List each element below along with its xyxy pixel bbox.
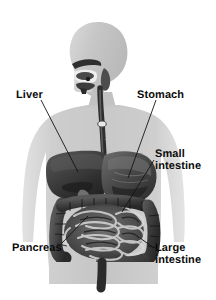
label-small-intestine-line2: intestine [155,161,201,173]
label-liver: Liver [16,90,43,102]
label-large-intestine: Large intestine [155,243,201,266]
liver-organ [46,151,108,201]
rectum [101,262,102,288]
label-pancreas: Pancreas [12,243,62,255]
digestive-system-figure: Liver Stomach Small intestine Pancreas L… [0,0,216,300]
label-small-intestine-line1: Small [155,149,201,161]
label-large-intestine-line2: intestine [155,255,201,267]
label-stomach: Stomach [137,90,184,102]
label-large-intestine-line1: Large [155,243,201,255]
label-small-intestine: Small intestine [155,149,201,172]
small-intestine-organ [64,204,144,260]
